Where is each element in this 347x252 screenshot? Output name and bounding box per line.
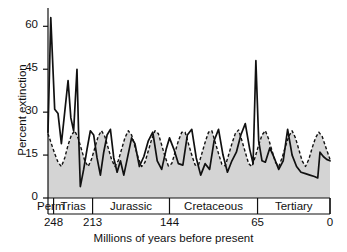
x-tick-label-0: 0 <box>300 216 347 228</box>
x-tick-label-213: 213 <box>63 216 123 228</box>
extinction-chart-figure: Percent extinction 0 15 30 45 60 Perm Tr… <box>0 0 347 252</box>
plot-canvas <box>0 0 347 252</box>
period-band-label-jurassic: Jurassic <box>91 200 171 212</box>
period-band-label-cretaceous: Cretaceous <box>174 200 254 212</box>
x-tick-label-144: 144 <box>139 216 199 228</box>
period-band-label-tertiary: Tertiary <box>254 200 334 212</box>
x-axis-label: Millions of years before present <box>0 232 347 244</box>
x-tick-label-65: 65 <box>228 216 288 228</box>
